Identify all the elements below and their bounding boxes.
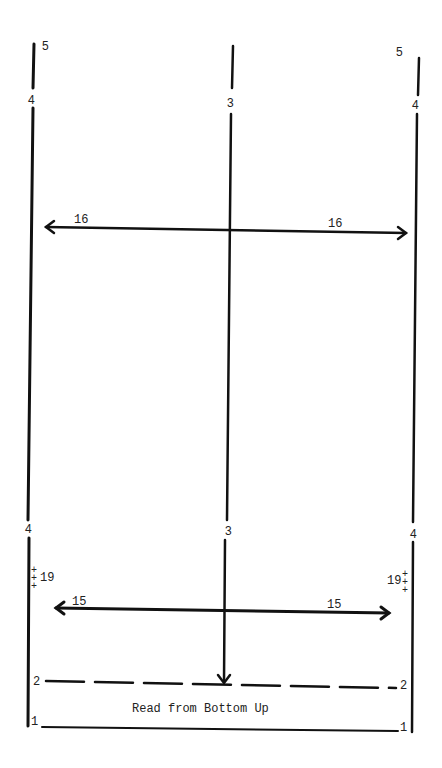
label-dash-left-2: 2: [33, 676, 40, 688]
right-line-upper: [413, 114, 417, 522]
label-arrow-16-left: 16: [74, 214, 88, 226]
label-upper-center-3: 3: [227, 97, 234, 109]
label-arrow-16-right: 16: [328, 218, 342, 230]
label-base-right-1: 1: [400, 722, 407, 734]
left-plus-markers: + + +: [31, 567, 37, 591]
center-line-upper: [227, 114, 231, 520]
folding-diagram: [0, 0, 442, 768]
dashed-fold-line: [46, 681, 396, 688]
label-lower-right-4: 4: [410, 528, 417, 540]
right-line-top: [418, 58, 419, 95]
caption-read-bottom-up: Read from Bottom Up: [132, 702, 269, 716]
label-left-19: 19: [40, 572, 54, 584]
left-line-lower: [28, 538, 29, 726]
arrow-16-shaft: [46, 227, 406, 233]
label-upper-right-4: 4: [412, 99, 419, 111]
center-line-top: [232, 46, 233, 88]
label-lower-left-4: 4: [25, 523, 32, 535]
label-right-19: 19: [387, 575, 401, 587]
right-line-lower: [412, 542, 413, 732]
label-upper-left-4: 4: [28, 94, 35, 106]
label-dash-right-2: 2: [400, 680, 407, 692]
label-base-left-1: 1: [31, 716, 38, 728]
label-top-right-5: 5: [396, 46, 403, 58]
label-top-left-5: 5: [42, 40, 49, 52]
right-plus-markers: + + +: [402, 571, 408, 595]
label-arrow-15-left: 15: [72, 596, 86, 608]
label-arrow-15-right: 15: [327, 599, 341, 611]
left-line-top: [33, 44, 34, 88]
left-line-upper: [28, 108, 33, 520]
label-lower-center-3: 3: [225, 525, 232, 537]
base-line: [42, 727, 398, 731]
